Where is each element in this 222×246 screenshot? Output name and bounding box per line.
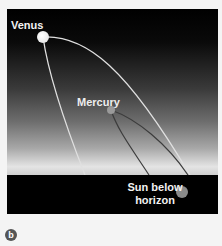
panel-label-badge: b — [5, 229, 17, 241]
mercury-path — [111, 110, 188, 175]
venus-label: Venus — [11, 19, 43, 31]
mercury-label: Mercury — [77, 96, 120, 108]
sun-label: Sun below horizon — [125, 181, 185, 207]
figure-panel: Venus Mercury Sun below horizon — [7, 9, 218, 214]
venus-dot — [37, 31, 49, 43]
